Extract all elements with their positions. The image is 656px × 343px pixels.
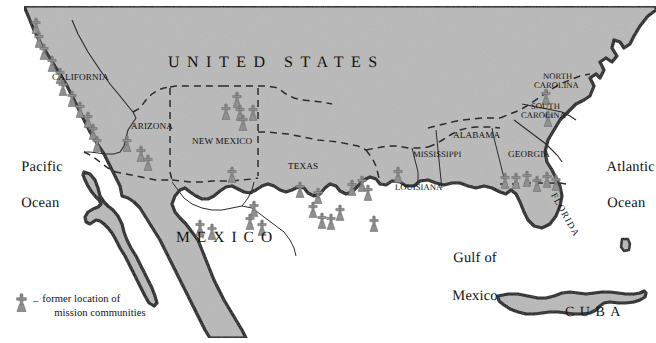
legend: – former location of mission communities bbox=[14, 292, 146, 320]
legend-line-2: mission communities bbox=[54, 306, 145, 320]
legend-description: former location of mission communities bbox=[42, 292, 145, 320]
mission-cross-icon bbox=[327, 214, 335, 230]
map-canvas: UNITED STATES MEXICO CUBA Pacific Ocean … bbox=[0, 0, 656, 343]
small-island bbox=[621, 239, 630, 251]
legend-dash: – bbox=[33, 295, 38, 306]
legend-line-1: former location of bbox=[42, 293, 120, 304]
mission-cross-icon bbox=[336, 205, 344, 221]
cuba-landmass bbox=[498, 291, 646, 314]
mission-cross-icon bbox=[364, 185, 372, 201]
mission-cross-icon bbox=[258, 220, 266, 236]
mission-cross-icon bbox=[318, 213, 326, 229]
mission-cross-icon bbox=[196, 220, 204, 236]
mission-cross-icon bbox=[370, 216, 378, 232]
mission-cross-icon bbox=[309, 202, 317, 218]
mission-cross-icon bbox=[208, 224, 216, 240]
mission-cross-icon bbox=[14, 293, 29, 313]
